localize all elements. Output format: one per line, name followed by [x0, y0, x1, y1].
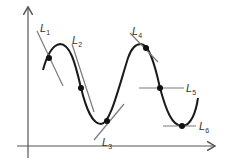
point-l5 — [157, 85, 163, 91]
label-l3: L3 — [102, 136, 112, 150]
point-l6 — [179, 123, 185, 129]
function-curve — [43, 44, 198, 126]
point-l1 — [46, 55, 52, 61]
point-l2 — [78, 85, 84, 91]
label-l5: L5 — [186, 82, 196, 96]
line-l2 — [72, 44, 94, 112]
tangent-lines-diagram: L1 L2 L3 L4 L5 L6 — [0, 0, 228, 168]
label-l2: L2 — [72, 34, 82, 48]
label-l4: L4 — [132, 25, 142, 39]
point-l3 — [104, 118, 110, 124]
label-l1: L1 — [40, 22, 50, 36]
point-l4 — [143, 45, 149, 51]
label-l6: L6 — [199, 120, 209, 134]
